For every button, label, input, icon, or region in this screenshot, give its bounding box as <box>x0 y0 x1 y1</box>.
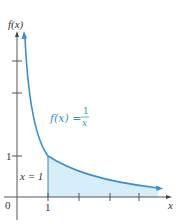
curve-f <box>25 38 158 188</box>
y-axis-label: f(x) <box>8 18 24 31</box>
y-axis-arrow-icon <box>15 31 19 37</box>
origin-label: 0 <box>5 199 11 211</box>
curve-arrow-right-icon <box>156 186 163 192</box>
function-label: f(x) = 1 x <box>49 106 89 128</box>
chart: f(x) x 0 1 1 x = 1 f(x) = 1 x <box>0 0 180 224</box>
curve-arrow-top-icon <box>22 31 28 39</box>
svg-text:f(x) =: f(x) = <box>49 112 82 125</box>
svg-text:x: x <box>82 118 87 128</box>
shaded-area <box>48 156 158 197</box>
y-tick-label-1: 1 <box>6 150 12 162</box>
boundary-label: x = 1 <box>19 170 43 182</box>
x-axis-label: x <box>167 199 173 211</box>
svg-text:1: 1 <box>83 106 89 116</box>
x-tick-label-1: 1 <box>45 201 51 213</box>
